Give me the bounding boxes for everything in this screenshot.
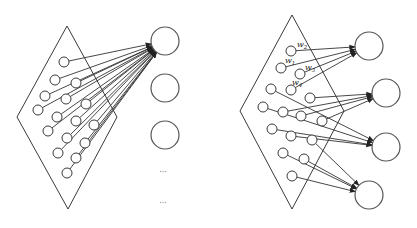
input-neuron (278, 107, 288, 117)
weight-label-w1: w1 (285, 56, 295, 66)
input-neuron (89, 120, 99, 130)
input-neuron (43, 126, 53, 136)
input-neuron (59, 57, 69, 67)
input-neuron (61, 94, 71, 104)
connection-edge (90, 50, 154, 101)
input-neuron (287, 171, 297, 181)
input-neuron (62, 133, 72, 143)
connection-edge (61, 51, 155, 149)
input-neuron (286, 131, 296, 141)
input-neuron (317, 116, 327, 126)
weight-label-w3: w3 (305, 63, 316, 73)
input-neuron (40, 91, 50, 101)
input-neuron (266, 84, 276, 94)
input-neuron (71, 78, 81, 88)
input-neuron (307, 135, 317, 145)
input-neuron (71, 153, 81, 163)
input-neuron (33, 105, 43, 115)
input-neuron (296, 111, 306, 121)
weight-label-w4: w4 (292, 78, 303, 88)
ellipsis: ... (159, 196, 167, 205)
input-neuron (286, 46, 296, 56)
input-neuron (299, 154, 309, 164)
input-neuron (50, 75, 60, 85)
input-neuron (258, 102, 268, 112)
output-neuron (151, 27, 179, 55)
output-neuron (355, 32, 383, 60)
connection-edge (308, 161, 356, 188)
input-plane (17, 26, 117, 209)
connection-edge (327, 99, 374, 119)
fully-connected-panel: ...... (17, 26, 179, 209)
input-neuron (305, 93, 315, 103)
output-neuron (151, 121, 179, 149)
input-neuron (52, 112, 62, 122)
ellipsis: ... (159, 165, 167, 174)
input-neuron (278, 148, 288, 158)
input-neuron (267, 124, 277, 134)
output-neuron (151, 74, 179, 102)
output-neuron (372, 79, 400, 107)
input-neuron (80, 138, 90, 148)
connection-edge (71, 51, 155, 135)
input-neuron (71, 116, 81, 126)
connection-edge (288, 96, 372, 112)
connectivity-diagram: ...... w2w1w3w4 (0, 0, 417, 228)
input-neuron (81, 99, 91, 109)
output-neuron (372, 133, 400, 161)
input-neuron (62, 168, 72, 178)
input-neuron (53, 148, 63, 158)
output-neuron (355, 181, 383, 209)
locally-connected-panel: w2w1w3w4 (240, 15, 400, 209)
